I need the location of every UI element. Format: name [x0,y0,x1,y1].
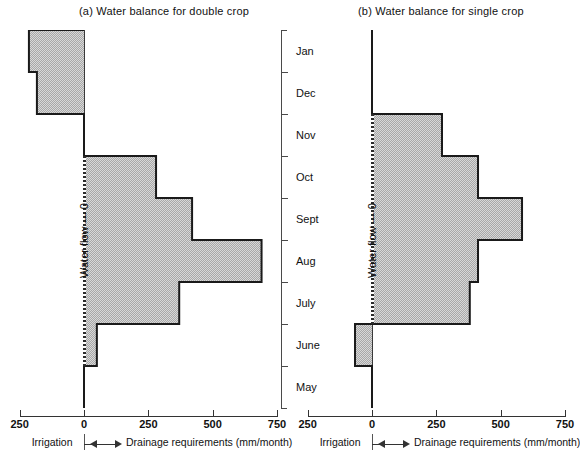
scale-tick [277,410,278,417]
panel-b-plot: Water flow — 0 [290,30,579,408]
scale-zero-stub [84,434,85,450]
scale-tick [84,410,85,417]
scale-tick-label: 250 [427,418,445,430]
month-axis-tick [281,198,288,199]
drainage-caption: Drainage requirements (mm/month) [414,436,580,448]
scale-zero-stub [372,434,373,450]
scale-tick [501,410,502,417]
drainage-arrow-head [115,440,122,448]
irrigation-caption: Irrigation [32,436,73,448]
panel-b-scale: 2500250500750IrrigationDrainage requirem… [290,408,579,458]
panel-a-water-flow-label: Water flow — 0 [78,203,90,278]
month-axis-tick [281,282,288,283]
drainage-arrow-line [372,444,404,445]
scale-tick [372,410,373,417]
month-label-nov: Nov [296,129,316,141]
scale-tick-label: 0 [81,418,87,430]
panel-b-water-flow-label: Water flow — 0 [366,203,378,278]
panel-a-scale: 2500250500750IrrigationDrainage requirem… [0,408,290,458]
month-label-sept: Sept [296,213,319,225]
panel-b-step-region [290,30,579,408]
drainage-arrow-head [403,440,410,448]
month-label-june: June [296,339,320,351]
drainage-arrow-line [84,444,116,445]
panel-a-title: (a) Water balance for double crop [79,5,249,17]
panel-b-step-polygon [290,30,579,408]
scale-tick-label: 500 [491,418,509,430]
month-label-jan: Jan [296,45,314,57]
scale-tick-label: 750 [556,418,574,430]
month-axis-tick [281,366,288,367]
scale-tick [565,410,566,417]
month-axis-tick [281,240,288,241]
scale-tick-label: 250 [298,418,316,430]
scale-tick-label: 750 [268,418,286,430]
month-label-oct: Oct [296,171,313,183]
month-label-dec: Dec [296,87,316,99]
scale-tick [308,410,309,417]
month-axis-tick [281,72,288,73]
scale-tick-label: 0 [369,418,375,430]
scale-tick-label: 250 [139,418,157,430]
scale-tick [20,410,21,417]
irrigation-caption: Irrigation [320,436,361,448]
month-label-july: July [296,297,316,309]
scale-tick-label: 500 [203,418,221,430]
panel-b-title: (b) Water balance for single crop [358,5,524,17]
scale-tick [148,410,149,417]
month-label-may: May [296,381,317,393]
month-axis-tick [281,156,288,157]
scale-tick [436,410,437,417]
month-axis-cap [281,30,287,31]
scale-tick-label: 250 [10,418,28,430]
drainage-caption: Drainage requirements (mm/month) [126,436,292,448]
scale-tick [213,410,214,417]
panel-a-step-polygon [0,30,290,408]
month-axis-tick [281,324,288,325]
month-label-aug: Aug [296,255,316,267]
month-axis-tick [281,114,288,115]
month-axis-line [281,30,282,408]
panel-a-plot: Water flow — 0 [0,30,290,408]
panel-a-step-region [0,30,290,408]
